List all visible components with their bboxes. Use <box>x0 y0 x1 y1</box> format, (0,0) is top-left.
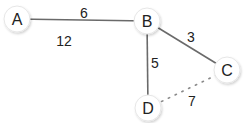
edge-weight-d-c: 7 <box>188 93 196 109</box>
node-c-label: C <box>221 62 233 79</box>
floating-weight-label: 12 <box>56 33 72 49</box>
node-c[interactable]: C <box>214 57 240 83</box>
edge-weight-a-b: 6 <box>80 5 88 21</box>
node-b[interactable]: B <box>134 8 160 34</box>
graph-diagram: 6 3 5 7 12 A B C D <box>0 0 251 123</box>
node-d-label: D <box>142 100 154 117</box>
node-d[interactable]: D <box>135 95 161 121</box>
node-b-label: B <box>142 13 153 30</box>
nodes: A B C D <box>4 6 240 121</box>
node-a-label: A <box>12 11 23 28</box>
edge-weight-b-c: 3 <box>187 29 195 45</box>
node-a[interactable]: A <box>4 6 30 32</box>
edge-weight-b-d: 5 <box>151 55 159 71</box>
